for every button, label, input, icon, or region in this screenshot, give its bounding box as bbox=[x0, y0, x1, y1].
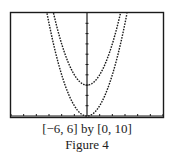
window-caption: [−6, 6] by [0, 10] bbox=[0, 121, 174, 136]
figure-caption: Figure 4 bbox=[0, 137, 174, 152]
graph-window bbox=[0, 0, 174, 120]
